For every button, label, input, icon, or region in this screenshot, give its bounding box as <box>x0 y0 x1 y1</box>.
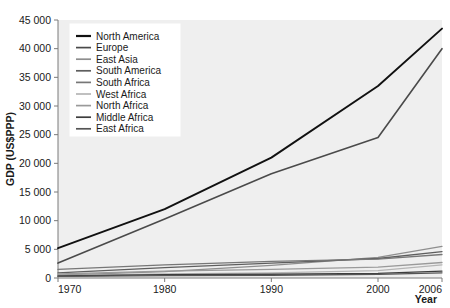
legend-label: North Africa <box>96 100 149 111</box>
y-tick-label: 15 000 <box>19 186 51 198</box>
x-tick-label: 1990 <box>260 283 284 295</box>
x-tick-label: 2000 <box>366 283 390 295</box>
y-tick-label: 25 000 <box>19 128 51 140</box>
legend-label: Middle Africa <box>96 112 154 123</box>
legend-label: Europe <box>96 42 129 53</box>
legend-label: South Africa <box>96 77 150 88</box>
legend-label: East Asia <box>96 54 138 65</box>
y-tick-label: 0 <box>45 272 51 284</box>
y-tick-label: 40 000 <box>19 42 51 54</box>
y-tick-label: 45 000 <box>19 14 51 26</box>
legend-label: West Africa <box>96 89 147 100</box>
y-tick-label: 10 000 <box>19 214 51 226</box>
y-axis-label: GDP (US$PPP) <box>4 112 16 186</box>
legend-label: North America <box>96 31 160 42</box>
y-tick-label: 20 000 <box>19 157 51 169</box>
gdp-line-chart: 05 00010 00015 00020 00025 00030 00035 0… <box>0 0 450 308</box>
chart-legend: North AmericaEuropeEast AsiaSouth Americ… <box>70 24 180 136</box>
y-tick-label: 35 000 <box>19 71 51 83</box>
y-tick-label: 5 000 <box>25 243 51 255</box>
x-axis-label: Year <box>415 293 437 305</box>
chart-canvas: 05 00010 00015 00020 00025 00030 00035 0… <box>0 0 450 308</box>
y-tick-label: 30 000 <box>19 100 51 112</box>
legend-label: East Africa <box>96 123 144 134</box>
legend-label: South America <box>96 65 161 76</box>
x-tick-label: 1970 <box>58 283 82 295</box>
x-tick-label: 1980 <box>153 283 177 295</box>
